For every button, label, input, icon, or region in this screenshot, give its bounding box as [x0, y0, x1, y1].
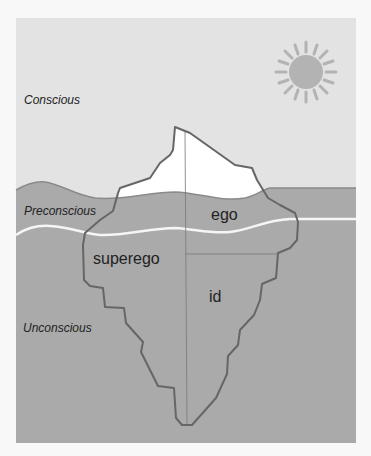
unconscious-label: Unconscious — [23, 321, 92, 335]
iceberg-model-diagram: Conscious Preconscious Unconscious ego s… — [0, 0, 371, 456]
id-label: id — [209, 288, 221, 306]
preconscious-label: Preconscious — [24, 204, 96, 218]
ego-label: ego — [211, 206, 238, 224]
superego-label: superego — [93, 250, 160, 268]
conscious-label: Conscious — [24, 93, 80, 107]
sun-icon — [276, 42, 336, 102]
